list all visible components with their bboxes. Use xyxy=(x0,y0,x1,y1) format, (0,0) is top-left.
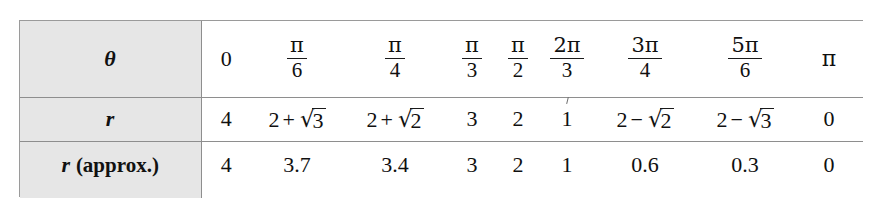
r-exact-cell-8: 0 xyxy=(795,97,863,141)
fraction-numerator: 5π xyxy=(728,35,761,59)
r-approx-value-5: 1 xyxy=(562,152,573,177)
fraction-denominator: 6 xyxy=(287,59,307,82)
term-two: 2 xyxy=(366,107,377,132)
r-exact-cell-4: 2 xyxy=(497,97,539,141)
r-approx-cell-7: 0.3 xyxy=(695,141,795,188)
r-approx-value-7: 0.3 xyxy=(731,152,759,177)
table-row-theta: θ 0 π 6 π 4 xyxy=(20,21,863,97)
theta-cell-4: π 2 xyxy=(497,21,539,97)
r-approx-value-3: 3 xyxy=(467,152,478,177)
fraction-pi-over-3: π 3 xyxy=(462,35,482,82)
r-exact-expr-2-minus-sqrt2: 2−√2 xyxy=(616,107,673,132)
term-two: 2 xyxy=(268,107,279,132)
fraction-3pi-over-4: 3π 4 xyxy=(628,35,661,82)
r-exact-cell-6: 2−√2 xyxy=(595,97,695,141)
r-exact-cell-7: 2−√3 xyxy=(695,97,795,141)
theta-cell-3: π 3 xyxy=(447,21,497,97)
fraction-numerator: π xyxy=(287,35,307,59)
r-approx-cell-0: 4 xyxy=(201,141,251,188)
theta-value-8: π xyxy=(822,46,836,71)
fraction-numerator: π xyxy=(385,35,405,59)
table: θ 0 π 6 π 4 xyxy=(20,21,863,198)
theta-cell-5: 2π 3 xyxy=(539,21,595,97)
r-approx-value-8: 0 xyxy=(824,152,835,177)
fraction-numerator: π xyxy=(508,35,528,59)
radicand: 2 xyxy=(660,108,674,132)
operator-minus: − xyxy=(727,107,745,132)
operator-minus: − xyxy=(627,107,645,132)
row-label-r-symbol: r xyxy=(106,106,115,131)
r-exact-value-8: 0 xyxy=(824,106,835,131)
fraction-numerator: π xyxy=(462,35,482,59)
row-label-theta: θ xyxy=(20,21,201,97)
fraction-2pi-over-3: 2π 3 xyxy=(550,35,583,82)
fraction-denominator: 2 xyxy=(508,59,528,82)
r-approx-cell-5: 1 xyxy=(539,141,595,188)
r-approx-cell-8: 0 xyxy=(795,141,863,188)
polar-values-table: θ 0 π 6 π 4 xyxy=(19,20,863,197)
r-exact-cell-2: 2+√2 xyxy=(343,97,447,141)
theta-cell-8: π xyxy=(795,21,863,97)
term-two: 2 xyxy=(616,107,627,132)
r-exact-expr-2-plus-sqrt2: 2+√2 xyxy=(366,107,423,132)
r-exact-value-0: 4 xyxy=(221,106,232,131)
radicand: 3 xyxy=(760,108,774,132)
r-exact-expr-2-plus-sqrt3: 2+√3 xyxy=(268,107,325,132)
r-exact-value-4: 2 xyxy=(513,106,524,131)
r-exact-cell-0: 4 xyxy=(201,97,251,141)
fraction-numerator: 2π xyxy=(550,35,583,59)
theta-cell-6: 3π 4 xyxy=(595,21,695,97)
r-approx-cell-4: 2 xyxy=(497,141,539,188)
square-root-icon: √2 xyxy=(646,107,674,131)
r-approx-cell-1: 3.7 xyxy=(251,141,343,188)
r-approx-cell-2: 3.4 xyxy=(343,141,447,188)
fraction-numerator: 3π xyxy=(628,35,661,59)
fraction-denominator: 4 xyxy=(628,59,661,82)
fraction-pi-over-6: π 6 xyxy=(287,35,307,82)
square-root-icon: √3 xyxy=(746,107,774,131)
r-exact-value-5: 1 xyxy=(562,106,573,131)
table-row-filler xyxy=(20,188,863,198)
operator-plus: + xyxy=(279,107,297,132)
theta-cell-0: 0 xyxy=(201,21,251,97)
theta-cell-7: 5π 6 xyxy=(695,21,795,97)
theta-cell-1: π 6 xyxy=(251,21,343,97)
row-label-theta-symbol: θ xyxy=(104,46,116,71)
r-exact-cell-3: 3 xyxy=(447,97,497,141)
fraction-denominator: 3 xyxy=(550,59,583,82)
r-exact-value-3: 3 xyxy=(467,106,478,131)
square-root-icon: √3 xyxy=(298,107,326,131)
r-exact-cell-5: 1 xyxy=(539,97,595,141)
r-approx-value-2: 3.4 xyxy=(381,152,409,177)
fraction-denominator: 6 xyxy=(728,59,761,82)
r-approx-cell-3: 3 xyxy=(447,141,497,188)
theta-value-0: 0 xyxy=(221,46,232,71)
r-approx-cell-6: 0.6 xyxy=(595,141,695,188)
r-exact-expr-2-minus-sqrt3: 2−√3 xyxy=(716,107,773,132)
r-approx-value-1: 3.7 xyxy=(283,152,311,177)
r-approx-value-6: 0.6 xyxy=(631,152,659,177)
filler-label-cell xyxy=(20,188,201,198)
radicand: 2 xyxy=(410,108,424,132)
radicand: 3 xyxy=(312,108,326,132)
square-root-icon: √2 xyxy=(396,107,424,131)
r-exact-cell-1: 2+√3 xyxy=(251,97,343,141)
fraction-pi-over-2: π 2 xyxy=(508,35,528,82)
table-row-r-approx: r (approx.) 4 3.7 3.4 3 2 1 xyxy=(20,141,863,188)
row-label-r-approx-rest: (approx.) xyxy=(71,153,159,177)
row-label-r-approx-symbol: r xyxy=(62,152,71,177)
fraction-denominator: 3 xyxy=(462,59,482,82)
filler-data-cell xyxy=(201,188,863,198)
theta-cell-2: π 4 xyxy=(343,21,447,97)
term-two: 2 xyxy=(716,107,727,132)
table-row-r-exact: r 4 2+√3 2+√2 3 2 1 xyxy=(20,97,863,141)
r-approx-value-4: 2 xyxy=(513,152,524,177)
row-label-r-approx: r (approx.) xyxy=(20,141,201,188)
fraction-denominator: 4 xyxy=(385,59,405,82)
r-approx-value-0: 4 xyxy=(221,152,232,177)
operator-plus: + xyxy=(377,107,395,132)
row-label-r: r xyxy=(20,97,201,141)
fraction-5pi-over-6: 5π 6 xyxy=(728,35,761,82)
fraction-pi-over-4: π 4 xyxy=(385,35,405,82)
